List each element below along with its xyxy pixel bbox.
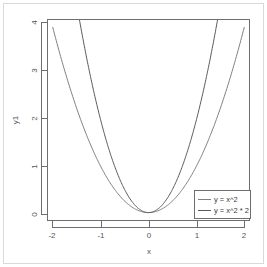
y-tick-label-0: 0	[30, 208, 39, 222]
y-tick-mark-3	[41, 70, 47, 71]
legend-item: y = x^2 * 2	[198, 205, 247, 216]
x-tick-mark-neg2	[52, 221, 53, 228]
x-tick-label-0: 0	[139, 231, 159, 240]
x-tick-label-neg2: -2	[42, 231, 62, 240]
legend-line-swatch-icon	[198, 199, 211, 200]
y-tick-label-1: 1	[30, 160, 39, 174]
y-tick-label-4: 4	[30, 16, 39, 30]
y-tick-label-2: 2	[30, 112, 39, 126]
legend-line-swatch-icon	[198, 210, 211, 211]
x-tick-mark-0	[149, 221, 150, 228]
chart-screenshot: 4 3 2 1 0 y1 -2 -1 0 1 2 x y = x^2 y = x…	[0, 0, 267, 267]
legend-item-label: y = x^2	[214, 195, 238, 204]
series-curve-y-eq-x2-times-2	[79, 20, 218, 213]
y-tick-mark-4	[41, 22, 47, 23]
y-tick-mark-1	[41, 166, 47, 167]
x-tick-mark-1	[197, 221, 198, 228]
x-tick-mark-2	[244, 221, 245, 228]
y-axis-title: y1	[11, 110, 21, 130]
x-tick-label-1: 1	[187, 231, 207, 240]
legend-item: y = x^2	[198, 194, 247, 205]
x-tick-mark-neg1	[101, 221, 102, 228]
x-tick-label-2: 2	[234, 231, 254, 240]
x-tick-label-neg1: -1	[91, 231, 111, 240]
y-tick-label-3: 3	[30, 64, 39, 78]
x-axis-line	[52, 227, 244, 228]
y-tick-mark-2	[41, 118, 47, 119]
legend-item-label: y = x^2 * 2	[214, 206, 249, 215]
y-tick-mark-0	[41, 214, 47, 215]
series-curve-y-eq-x2	[53, 27, 244, 212]
legend: y = x^2 y = x^2 * 2	[194, 190, 251, 219]
x-axis-title: x	[138, 247, 160, 256]
